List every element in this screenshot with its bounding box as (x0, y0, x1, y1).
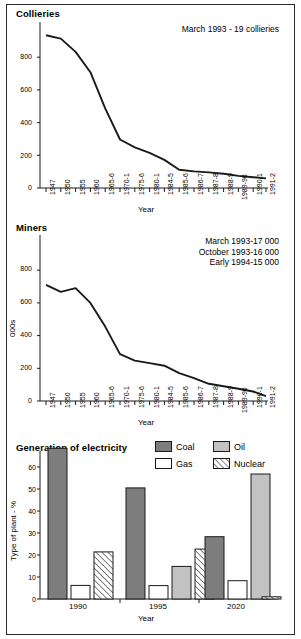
collieries-xtick-1947: 1947 (49, 179, 56, 195)
collieries-xtick-1984-5: 1984-5 (167, 173, 174, 195)
collieries-xtick-1991-2: 1991-2 (269, 173, 276, 195)
collieries-xtick-1989-90: 1989-90 (241, 174, 248, 200)
miners-xtick-1986-7: 1986-7 (197, 386, 204, 408)
collieries-xtick-1986-7: 1986-7 (197, 173, 204, 195)
miners-xtick-1975-6: 1975-6 (138, 386, 145, 408)
collieries-xtick-1980-1: 1980-1 (153, 173, 160, 195)
collieries-xtick-1990-1: 1990-1 (256, 173, 263, 195)
panel-generation: Generation of electricity Coal Oil Gas (0, 433, 289, 630)
miners-xtick-1990-1: 1990-1 (256, 386, 263, 408)
miners-xtick-1947: 1947 (49, 392, 56, 408)
generation-xtick-1995: 1995 (136, 602, 180, 611)
generation-xtick-1990: 1990 (56, 602, 100, 611)
collieries-xtick-1955: 1955 (79, 179, 86, 195)
miners-xtick-1985-6: 1985-6 (182, 386, 189, 408)
panel-collieries: Collieries March 1993 - 19 collieries 0 … (0, 0, 289, 217)
figure-page: Collieries March 1993 - 19 collieries 0 … (0, 0, 301, 639)
miners-xtick-1991-2: 1991-2 (269, 386, 276, 408)
miners-xaxis-title: Year (138, 418, 154, 427)
miners-xtick-1950: 1950 (64, 392, 71, 408)
collieries-xtick-1970-1: 1970-1 (123, 173, 130, 195)
miners-xtick-1960: 1960 (93, 392, 100, 408)
miners-xtick-1970-1: 1970-1 (123, 386, 130, 408)
miners-xtick-1984-5: 1984-5 (167, 386, 174, 408)
miners-xtick-1987-8: 1987-8 (212, 386, 219, 408)
collieries-xaxis-title: Year (138, 205, 154, 214)
generation-plot (0, 433, 289, 630)
miners-xtick-1965-6: 1965-6 (108, 386, 115, 408)
collieries-xtick-1985-6: 1985-6 (182, 173, 189, 195)
generation-xaxis-title: Year (138, 614, 154, 623)
panel-miners: Miners March 1993-17 000 October 1993-16… (0, 217, 289, 433)
collieries-xtick-1975-6: 1975-6 (138, 173, 145, 195)
miners-xtick-1989-90: 1989-90 (241, 387, 248, 413)
collieries-xtick-1960: 1960 (93, 179, 100, 195)
collieries-xtick-1965-6: 1965-6 (108, 173, 115, 195)
collieries-xtick-1950: 1950 (64, 179, 71, 195)
generation-xtick-2020: 2020 (214, 602, 258, 611)
collieries-xtick-1987-8: 1987-8 (212, 173, 219, 195)
miners-xtick-1980-1: 1980-1 (153, 386, 160, 408)
collieries-xtick-1988-9: 1988-9 (227, 173, 234, 195)
miners-xtick-1988-9: 1988-9 (227, 386, 234, 408)
miners-xtick-1955: 1955 (79, 392, 86, 408)
